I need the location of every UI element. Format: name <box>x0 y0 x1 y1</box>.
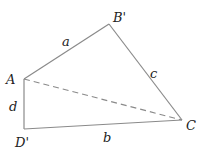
diagonal-a-c <box>24 79 182 120</box>
vertex-label-d-prime: D' <box>14 135 29 150</box>
edge-label-a: a <box>62 34 70 49</box>
vertex-label-c: C <box>186 118 196 133</box>
vertex-label-b-prime: B' <box>112 10 126 25</box>
vertex-label-a: A <box>5 72 15 87</box>
edge-b-c <box>109 24 182 120</box>
edge-label-b: b <box>103 130 111 145</box>
edge-d-c <box>24 120 182 129</box>
quadrilateral-diagram: A B' C D' a c b d <box>0 0 210 157</box>
edge-label-c: c <box>150 66 158 81</box>
edge-a-b <box>24 24 109 79</box>
edge-label-d: d <box>9 99 17 114</box>
